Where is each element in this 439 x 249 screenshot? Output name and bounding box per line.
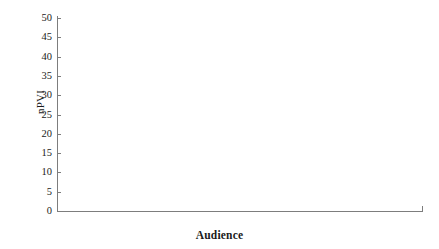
y-axis-tick-label: 20 [14,129,52,139]
x-axis-line [57,211,423,212]
y-axis-tick [57,115,61,116]
y-axis-tick-label: 15 [14,148,52,158]
y-axis-tick [57,95,61,96]
y-axis-tick [57,134,61,135]
y-axis-label: nPVI [34,72,46,132]
y-axis-tick [57,153,61,154]
y-axis-tick-label: 25 [14,110,52,120]
y-axis-tick [57,211,61,212]
y-axis-tick [57,18,61,19]
y-axis-tick-label: 40 [14,52,52,62]
y-axis-tick [57,172,61,173]
y-axis-tick-label: 45 [14,32,52,42]
y-axis-tick [57,76,61,77]
x-axis-label: Audience [0,229,439,241]
bar-chart: nPVI 05101520253035404550 Audience [0,0,439,249]
y-axis-tick-label: 35 [14,71,52,81]
y-axis-tick-label: 50 [14,13,52,23]
y-axis-tick-label: 5 [14,187,52,197]
x-axis-end-tick [422,206,423,212]
y-axis-tick [57,57,61,58]
y-axis-tick-label: 0 [14,206,52,216]
y-axis-tick [57,192,61,193]
y-axis-tick-label: 30 [14,90,52,100]
y-axis-tick-label: 10 [14,167,52,177]
y-axis-tick [57,37,61,38]
